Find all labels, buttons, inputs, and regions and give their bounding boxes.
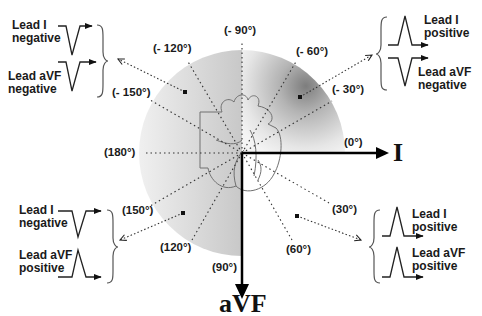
angle-label-0: (0°) (344, 136, 363, 148)
angle-label-minus-150: (- 150°) (112, 86, 150, 98)
angle-label-60: (60°) (286, 243, 311, 255)
ll-lead-i-label: Lead I negative (19, 204, 68, 230)
angle-label-180: (180°) (104, 146, 135, 158)
ur-lead-avf-label: Lead aVF negative (418, 66, 471, 92)
ur-lead-i-label: Lead I positive (424, 14, 469, 40)
angle-label-minus-120: (- 120°) (153, 42, 191, 54)
ul-lead-i-label: Lead I negative (12, 19, 61, 45)
angle-label-30: (30°) (332, 203, 357, 215)
angle-label-minus-60: (- 60°) (296, 45, 328, 57)
angle-label-minus-30: (- 30°) (332, 83, 364, 95)
axis-label-lead-avf: aVF (219, 290, 267, 316)
hexaxial-diagram: (- 90°) (- 120°) (- 60°) (- 150°) (- 30°… (0, 0, 482, 316)
ul-lead-avf-label: Lead aVF negative (8, 70, 61, 96)
ll-lead-avf-label: Lead aVF positive (19, 249, 72, 275)
angle-label-150: (150°) (122, 204, 153, 216)
lr-lead-avf-label: Lead aVF positive (412, 247, 465, 273)
angle-label-minus-90: (- 90°) (224, 24, 256, 36)
lead-i-arrowhead-icon (376, 147, 389, 159)
lr-lead-i-label: Lead I positive (412, 208, 457, 234)
angle-label-120: (120°) (160, 241, 191, 253)
angle-label-90: (90°) (212, 261, 237, 273)
axis-label-lead-i: I (393, 139, 403, 167)
